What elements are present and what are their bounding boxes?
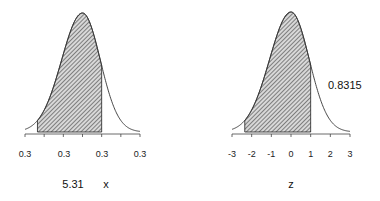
right-tick-label: 2: [328, 149, 333, 159]
right-tick-label: 1: [308, 149, 313, 159]
right-tick-label: 0: [288, 149, 293, 159]
left-tick-label: 0.3: [134, 149, 147, 159]
left-shaded-area: [37, 13, 101, 132]
right-tick-label: -1: [267, 149, 275, 159]
normal-distribution-figure: 0.3 0.3 0.3 0.3 5.31 x -3 -2 -1 0 1 2 3 …: [0, 0, 380, 201]
right-tick-label: 3: [347, 149, 352, 159]
right-axis-label: z: [288, 178, 294, 190]
left-axis-ticks: [25, 134, 140, 137]
left-value-label: 5.31: [62, 178, 83, 190]
right-area-annotation: 0.8315: [328, 79, 362, 91]
left-tick-label: 0.3: [58, 149, 71, 159]
right-tick-label: -3: [228, 149, 236, 159]
right-chart: -3 -2 -1 0 1 2 3 0.8315 z: [228, 12, 362, 190]
right-shaded-area: [245, 12, 311, 132]
left-tick-label: 0.3: [96, 149, 109, 159]
right-axis-ticks: [232, 134, 350, 137]
left-chart: 0.3 0.3 0.3 0.3 5.31 x: [19, 13, 147, 190]
right-tick-label: -2: [248, 149, 256, 159]
left-tick-label: 0.3: [19, 149, 32, 159]
left-axis-label: x: [103, 178, 109, 190]
